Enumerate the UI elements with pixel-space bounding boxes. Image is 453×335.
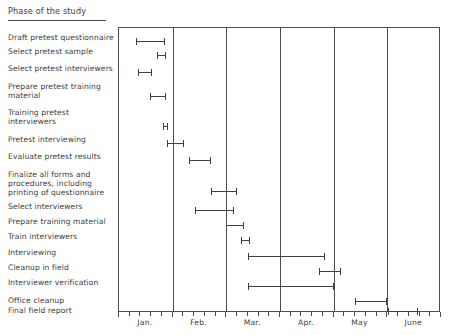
axis-minor-tick <box>182 312 183 316</box>
task-label: Prepare pretest trainingmaterial <box>8 82 116 100</box>
task-label: Select pretest interviewers <box>8 64 116 73</box>
task-label: Prepare training material <box>8 217 116 226</box>
task-label-line: printing of questionnaire <box>8 188 116 197</box>
axis-minor-tick <box>300 312 301 316</box>
plot-area <box>118 27 440 312</box>
task-label-line: Draft pretest questionnaire <box>8 33 116 42</box>
axis-minor-tick <box>161 312 162 316</box>
month-label: June <box>386 318 440 327</box>
task-label-line: Evaluate pretest results <box>8 152 116 161</box>
task-label: Final field report <box>8 306 116 315</box>
task-label-line: Final field report <box>8 306 116 315</box>
task-label: Finalize all forms andprocedures, includ… <box>8 170 116 197</box>
task-label-column: Phase of the study Draft pretest questio… <box>0 0 118 335</box>
gantt-bar <box>319 271 341 272</box>
axis-minor-tick <box>311 312 312 316</box>
task-label-line: Select interviewers <box>8 202 116 211</box>
task-label-line: Prepare training material <box>8 217 116 226</box>
axis-minor-tick <box>204 312 205 316</box>
task-label-line: material <box>8 91 116 100</box>
task-label: Training pretestinterviewers <box>8 108 116 126</box>
axis-minor-tick <box>129 312 130 316</box>
task-label: Interviewer verification <box>8 278 116 287</box>
column-header-text: Phase of the study <box>8 6 112 16</box>
axis-major-tick <box>440 312 441 317</box>
task-label-line: Finalize all forms and <box>8 170 116 179</box>
x-axis: Jan.Feb.Mar.Apr.MayJune <box>118 312 441 335</box>
task-label: Select pretest sample <box>8 47 116 56</box>
month-gridline <box>387 28 388 311</box>
month-gridline <box>173 28 174 311</box>
axis-minor-tick <box>268 312 269 316</box>
month-gridline <box>334 28 335 311</box>
column-header-rule <box>8 20 106 21</box>
axis-minor-tick <box>429 312 430 316</box>
task-label-line: Train interviewers <box>8 232 116 241</box>
task-label-line: Interviewer verification <box>8 278 116 287</box>
gantt-bar <box>248 286 334 287</box>
task-label: Evaluate pretest results <box>8 152 116 161</box>
axis-minor-tick <box>139 312 140 316</box>
gantt-bar <box>150 96 166 97</box>
gantt-bar <box>241 240 250 241</box>
axis-minor-tick <box>322 312 323 316</box>
task-label-line: Training pretest <box>8 108 116 117</box>
month-gridline <box>226 28 227 311</box>
axis-major-tick <box>279 312 280 317</box>
task-label: Interviewing <box>8 248 116 257</box>
task-label-line: Select pretest interviewers <box>8 64 116 73</box>
axis-major-tick <box>333 312 334 317</box>
gantt-bar <box>167 143 184 144</box>
axis-minor-tick <box>419 312 420 316</box>
axis-minor-tick <box>376 312 377 316</box>
axis-minor-tick <box>365 312 366 316</box>
axis-major-tick <box>386 312 387 317</box>
gantt-bar <box>157 55 166 56</box>
gantt-bar <box>189 160 212 161</box>
month-label: May <box>333 318 387 327</box>
task-label: Draft pretest questionnaire <box>8 33 116 42</box>
task-label-line: Prepare pretest training <box>8 82 116 91</box>
gantt-bar <box>195 210 234 211</box>
task-label-line: Select pretest sample <box>8 47 116 56</box>
task-label-line: Office cleanup <box>8 296 116 305</box>
gantt-bar <box>138 72 151 73</box>
gantt-bar <box>226 225 244 226</box>
task-label-line: Interviewing <box>8 248 116 257</box>
gantt-bar <box>355 301 387 302</box>
axis-minor-tick <box>236 312 237 316</box>
task-label-line: interviewers <box>8 117 116 126</box>
axis-minor-tick <box>343 312 344 316</box>
column-header: Phase of the study <box>8 6 112 16</box>
axis-major-tick <box>172 312 173 317</box>
gantt-bar <box>211 191 237 192</box>
task-label: Office cleanup <box>8 296 116 305</box>
axis-minor-tick <box>290 312 291 316</box>
task-label: Select interviewers <box>8 202 116 211</box>
gantt-bar <box>163 126 168 127</box>
axis-major-tick <box>118 312 119 317</box>
axis-minor-tick <box>150 312 151 316</box>
axis-major-tick <box>225 312 226 317</box>
axis-minor-tick <box>247 312 248 316</box>
axis-minor-tick <box>258 312 259 316</box>
task-label-line: procedures, including <box>8 179 116 188</box>
axis-minor-tick <box>408 312 409 316</box>
month-gridline <box>280 28 281 311</box>
task-label: Pretest interviewing <box>8 135 116 144</box>
axis-minor-tick <box>397 312 398 316</box>
axis-minor-tick <box>215 312 216 316</box>
task-label: Train interviewers <box>8 232 116 241</box>
month-label: Mar. <box>225 318 279 327</box>
gantt-bar <box>248 256 325 257</box>
axis-minor-tick <box>193 312 194 316</box>
task-label: Cleanup in field <box>8 263 116 272</box>
month-label: Jan. <box>118 318 172 327</box>
gantt-bar <box>136 41 164 42</box>
task-label-line: Cleanup in field <box>8 263 116 272</box>
task-label-line: Pretest interviewing <box>8 135 116 144</box>
month-label: Feb. <box>172 318 226 327</box>
gantt-chart: Phase of the study Draft pretest questio… <box>0 0 453 335</box>
month-label: Apr. <box>279 318 333 327</box>
axis-minor-tick <box>354 312 355 316</box>
